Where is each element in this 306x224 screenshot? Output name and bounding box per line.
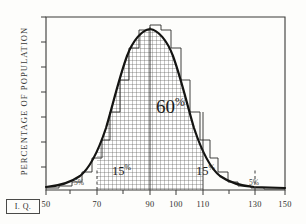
x-axis-title-box: I. Q. [6, 199, 40, 214]
label-5-percent-left: 5% [74, 178, 84, 187]
x-tick-label-100: 100 [169, 200, 182, 209]
chart-canvas [0, 0, 306, 224]
label-15-percent-left: 15% [112, 163, 131, 179]
x-tick-label-150: 150 [278, 200, 291, 209]
y-axis-ticks [41, 17, 46, 167]
x-tick-label-50: 50 [42, 200, 51, 209]
x-axis-ticks [46, 190, 285, 195]
label-15-percent-right: 15% [196, 163, 215, 179]
label-60-percent: 60% [156, 96, 185, 118]
label-5-percent-right: 5% [249, 178, 259, 187]
iq-distribution-chart: PERCENTAGE OF POPULATION [0, 0, 306, 224]
x-tick-label-70: 70 [93, 200, 102, 209]
x-tick-label-130: 130 [248, 200, 261, 209]
x-tick-label-90: 90 [146, 200, 155, 209]
x-tick-label-110: 110 [196, 200, 209, 209]
